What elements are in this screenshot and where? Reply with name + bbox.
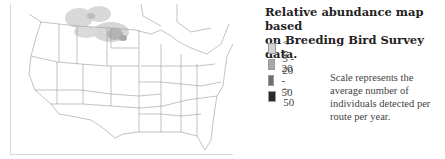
legend-swatch xyxy=(268,59,275,70)
legend-item: > 50 xyxy=(268,90,297,102)
abundance-map xyxy=(10,4,233,155)
us-map-outline xyxy=(11,4,233,154)
legend-swatch xyxy=(268,75,274,86)
legend-swatch xyxy=(268,91,276,102)
scale-note: Scale represents the average number of i… xyxy=(330,71,445,123)
legend-swatch xyxy=(268,43,276,54)
title-line-1: Relative abundance map based xyxy=(265,5,445,33)
legend-label: > 50 xyxy=(283,84,297,108)
abundance-shading xyxy=(65,6,129,42)
